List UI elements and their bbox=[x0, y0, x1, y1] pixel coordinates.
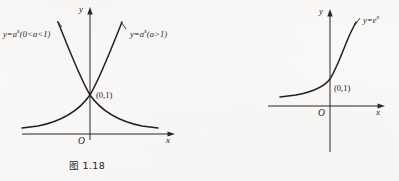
origin-label: O bbox=[318, 109, 325, 119]
y-axis-arrow bbox=[87, 7, 92, 15]
y-axis-arrow bbox=[327, 9, 332, 17]
textbook-figure-page: y=ax(0<a<1) y=ax(a>1) y x O (0,1) 图 1.18… bbox=[0, 0, 399, 181]
intersection-point-label: (0,1) bbox=[334, 84, 350, 93]
curve-label-increasing-exponential: y=ax(a>1) bbox=[130, 28, 167, 38]
figure-1-19: y=ex y x O (0,1) 图 1.19 bbox=[200, 0, 399, 181]
y-axis-label: y bbox=[79, 5, 83, 14]
y-axis-label: y bbox=[319, 7, 323, 16]
origin-label: O bbox=[78, 137, 85, 147]
intersection-point-label: (0,1) bbox=[96, 91, 112, 100]
figure-1-18-plot bbox=[0, 0, 200, 160]
x-axis-label: x bbox=[166, 136, 170, 145]
x-axis-label: x bbox=[376, 108, 380, 117]
curve-label-decreasing-exponential: y=ax(0<a<1) bbox=[3, 28, 50, 38]
figure-caption-1-18: 图 1.18 bbox=[69, 161, 105, 171]
leader-line-right-curve bbox=[121, 22, 126, 29]
curve-label-natural-exponential: y=ex bbox=[363, 14, 379, 24]
figure-1-18: y=ax(0<a<1) y=ax(a>1) y x O (0,1) 图 1.18 bbox=[0, 0, 200, 181]
